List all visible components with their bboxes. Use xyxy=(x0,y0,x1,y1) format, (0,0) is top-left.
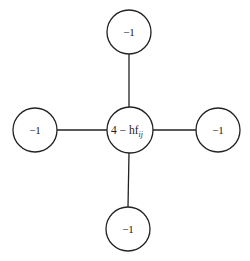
node-top: −1 xyxy=(107,10,151,54)
node-center-subscript: ij xyxy=(139,130,144,139)
node-center: 4 − hfij xyxy=(107,107,153,153)
node-right-label: −1 xyxy=(212,124,224,136)
node-bottom-label: −1 xyxy=(122,223,134,235)
node-left: −1 xyxy=(13,108,57,152)
node-left-label: −1 xyxy=(29,124,41,136)
node-bottom: −1 xyxy=(106,207,150,251)
stencil-svg: −1 −1 4 − hfij −1 −1 xyxy=(0,0,250,261)
node-right: −1 xyxy=(196,108,240,152)
edge-bottom xyxy=(128,153,129,207)
node-top-label: −1 xyxy=(123,26,135,38)
stencil-diagram: −1 −1 4 − hfij −1 −1 xyxy=(0,0,250,261)
